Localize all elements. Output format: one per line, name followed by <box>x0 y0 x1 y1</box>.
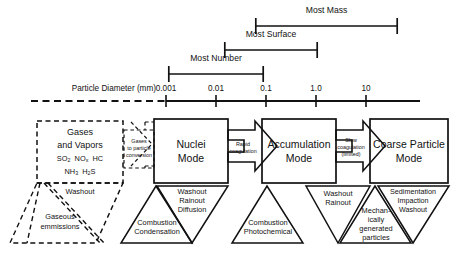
axis-title: Particle Diameter (mm) <box>26 84 156 93</box>
conversion-line2: to particle <box>121 145 157 151</box>
gaseous-emissions-line2: emmissions <box>22 223 98 231</box>
nuclei-mode-line2: Mode <box>154 153 228 165</box>
diagram-canvas: Most Mass Most Surface Most Number Parti… <box>0 0 453 254</box>
rapid-coagulation-line2: coagulation <box>225 148 261 154</box>
gases-and-vapors-line2: and Vapors <box>37 140 123 150</box>
nuclei-source-line2: Condensation <box>120 228 194 236</box>
bracket-label-most-surface: Most Surface <box>224 30 318 40</box>
slow-coagulation-line3: (limited) <box>334 151 368 157</box>
washout-top-label: Washout <box>37 188 123 196</box>
coarse-removal-line1: Sedimentation <box>376 188 450 196</box>
nuclei-mode-line1: Nuclei <box>154 139 228 151</box>
coarse-particle-mode-line1: Coarse Particle <box>368 139 450 151</box>
coarse-particle-mode-line2: Mode <box>370 153 448 165</box>
bracket-label-most-mass: Most Mass <box>255 6 398 16</box>
conversion-line3: conversion <box>121 152 157 158</box>
coarse-source-line4: particles <box>343 234 409 242</box>
bracket-label-most-number: Most Number <box>168 54 264 64</box>
slow-coagulation-line2: coagulation <box>333 144 369 150</box>
axis-tick-label-3: 1.0 <box>296 84 336 93</box>
axis-tick-label-4: 10 <box>346 84 386 93</box>
bracket-most-number <box>168 66 264 82</box>
nuclei-mode-box <box>154 119 228 183</box>
gases-and-vapors-species-1: SO2 NOx HC <box>37 155 123 164</box>
nuclei-removal-line3: Diffusion <box>158 206 226 214</box>
conversion-line1: Gases <box>122 138 156 144</box>
accumulation-mode-line2: Mode <box>262 153 336 165</box>
coarse-removal-line2: Impaction <box>376 197 450 205</box>
rapid-coagulation-line1: Rapid <box>228 141 258 147</box>
coarse-particle-mode-box <box>370 119 448 183</box>
slow-coagulation-line1: Slow <box>336 137 366 143</box>
gaseous-emissions-line1: Gaseous <box>22 213 98 221</box>
gases-and-vapors-species-2: NH3 H2S <box>37 168 123 177</box>
axis-tick-label-2: 0.1 <box>246 84 286 93</box>
gases-and-vapors-line1: Gases <box>37 127 123 137</box>
axis-tick-label-0: 0.001 <box>146 84 186 93</box>
accumulation-source-line2: Photochemical <box>231 228 305 236</box>
axis-tick-label-1: 0.01 <box>196 84 236 93</box>
accumulation-mode-line1: Accumulation <box>260 139 338 151</box>
